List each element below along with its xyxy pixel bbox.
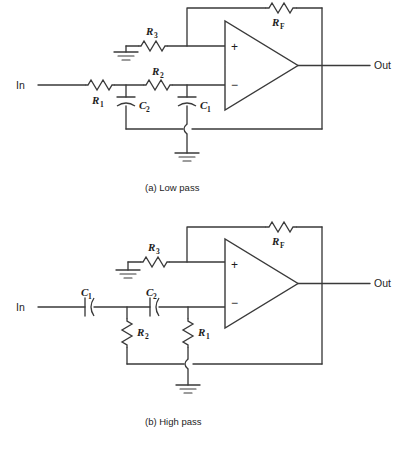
svg-text:1: 1 (206, 332, 210, 341)
hp-resistor-rf-symbol (265, 222, 297, 232)
hp-opamp-minus-label: − (231, 296, 238, 310)
hp-opamp-plus-label: + (231, 258, 238, 272)
lp-resistor-r1-symbol (85, 80, 115, 90)
hp-ground-b-symbol (176, 385, 200, 393)
svg-text:R: R (197, 326, 205, 338)
circuit-high-pass: In Out + − R 3 R F C 1 C 2 R 2 (16, 222, 391, 427)
svg-text:R: R (145, 25, 153, 37)
figure-root: In Out + − R 3 R 2 R 1 R F C 1 (0, 0, 412, 450)
svg-text:R: R (271, 235, 279, 247)
svg-text:F: F (280, 22, 285, 31)
svg-text:R: R (136, 326, 144, 338)
hp-opamp-triangle (225, 239, 298, 328)
svg-text:1: 1 (88, 292, 92, 301)
lp-resistor-r3-symbol (138, 41, 168, 51)
lp-label-rf: R F (271, 16, 285, 31)
hp-resistor-r2-symbol (122, 318, 132, 348)
svg-text:2: 2 (145, 332, 149, 341)
hp-caption: (b) High pass (145, 416, 202, 427)
svg-text:1: 1 (207, 105, 211, 114)
svg-text:2: 2 (153, 292, 157, 301)
svg-text:3: 3 (154, 31, 158, 40)
lp-ground-b-symbol (175, 153, 199, 161)
lp-label-r3: R 3 (145, 25, 158, 40)
lp-label-r1: R 1 (91, 94, 104, 109)
svg-text:2: 2 (146, 105, 150, 114)
circuit-low-pass: In Out + − R 3 R 2 R 1 R F C 1 (16, 3, 391, 193)
hp-label-rf: R F (271, 235, 285, 250)
lp-label-r2: R 2 (151, 65, 164, 80)
lp-resistor-r2-symbol (143, 80, 173, 90)
lp-caption: (a) Low pass (145, 182, 200, 193)
svg-text:1: 1 (100, 100, 104, 109)
hp-input-label: In (16, 301, 25, 313)
hp-ground-a-symbol (116, 270, 140, 278)
svg-text:R: R (151, 65, 159, 77)
hp-output-label: Out (374, 277, 391, 289)
lp-wire-hop (184, 124, 187, 134)
hp-wire-hop (185, 359, 188, 369)
circuit-diagram-svg: In Out + − R 3 R 2 R 1 R F C 1 (0, 0, 412, 450)
hp-label-r2: R 2 (136, 326, 149, 341)
hp-label-r1: R 1 (197, 326, 210, 341)
lp-output-label: Out (374, 59, 391, 71)
svg-text:2: 2 (160, 71, 164, 80)
lp-resistor-rf-symbol (265, 3, 297, 13)
svg-text:R: R (91, 94, 99, 106)
svg-text:R: R (271, 16, 279, 28)
hp-label-c1: C 1 (81, 286, 92, 301)
hp-resistor-r1-symbol (183, 318, 193, 348)
lp-label-c1: C 1 (200, 99, 211, 114)
svg-text:3: 3 (156, 247, 160, 256)
lp-capacitor-c2-symbol (117, 97, 135, 106)
lp-ground-a-symbol (114, 52, 138, 60)
hp-resistor-r3-symbol (140, 257, 170, 267)
lp-label-c2: C 2 (139, 99, 150, 114)
hp-label-r3: R 3 (147, 241, 160, 256)
svg-text:R: R (147, 241, 155, 253)
lp-opamp-plus-label: + (231, 40, 238, 54)
hp-label-c2: C 2 (146, 286, 157, 301)
svg-text:F: F (280, 241, 285, 250)
lp-opamp-minus-label: − (231, 78, 238, 92)
lp-input-label: In (16, 79, 25, 91)
lp-opamp-triangle (225, 21, 298, 110)
lp-capacitor-c1-symbol (178, 97, 196, 106)
